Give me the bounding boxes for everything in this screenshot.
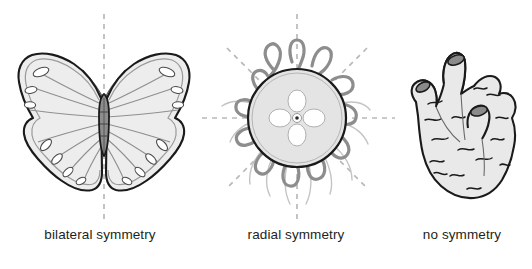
caption-no-symmetry: no symmetry bbox=[392, 228, 532, 242]
caption-radial: radial symmetry bbox=[196, 228, 396, 242]
sponge-illustration bbox=[392, 0, 532, 228]
symmetry-figure: bilateral symmetry bbox=[0, 0, 532, 269]
panel-bilateral-symmetry: bilateral symmetry bbox=[0, 0, 200, 269]
panel-no-symmetry: no symmetry bbox=[392, 0, 532, 269]
jellyfish-illustration bbox=[196, 0, 396, 228]
jellyfish-center-point bbox=[295, 116, 299, 120]
panel-radial-symmetry: radial symmetry bbox=[196, 0, 396, 269]
butterfly-wing-right bbox=[106, 53, 189, 190]
caption-bilateral: bilateral symmetry bbox=[0, 228, 200, 242]
butterfly-illustration bbox=[0, 0, 200, 228]
butterfly-wing-left bbox=[19, 53, 102, 190]
